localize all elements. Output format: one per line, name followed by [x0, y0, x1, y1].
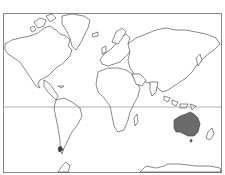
central-america-landmass	[44, 80, 58, 100]
tasmania	[190, 139, 192, 142]
world-map	[0, 0, 225, 175]
north-america-landmass	[5, 26, 72, 88]
australia-highlighted	[174, 112, 200, 136]
antarctica-landmass	[140, 164, 221, 172]
arctic-islands	[34, 18, 46, 28]
new-zealand-landmass	[206, 128, 214, 140]
south-america-landmass	[54, 98, 82, 154]
